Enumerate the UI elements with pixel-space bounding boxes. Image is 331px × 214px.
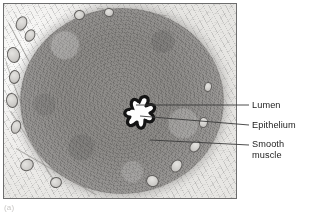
label-smooth-muscle: Smooth muscle <box>252 139 284 161</box>
figure-panel: Lumen Epithelium Smooth muscle (a) <box>0 0 331 214</box>
lumen-star-svg <box>122 92 160 132</box>
label-lumen: Lumen <box>252 100 281 111</box>
cross-section-micrograph <box>3 3 237 199</box>
label-epithelium: Epithelium <box>252 120 296 131</box>
caption-marker: (a) <box>4 203 14 212</box>
lumen-epithelium-structure <box>122 92 160 132</box>
